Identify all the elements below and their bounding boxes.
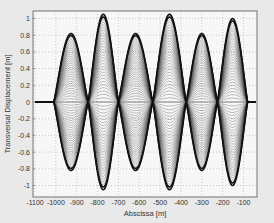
x-tick-label: -600 [132, 199, 146, 206]
x-tick-label: -700 [111, 199, 125, 206]
y-tick-label: 0.8 [20, 32, 30, 39]
x-tick-label: -1000 [47, 199, 65, 206]
y-axis-label: Transversal Displacement [m] [3, 55, 12, 154]
y-tick-label: 0.6 [20, 48, 30, 55]
y-tick-label: 0 [26, 99, 30, 106]
y-tick-label: -1 [24, 182, 30, 189]
x-axis-label: Abscissa [m] [124, 209, 167, 218]
x-tick-label: -400 [174, 199, 188, 206]
x-axis-ticks: -1100-1000-900-800-700-600-500-400-300-2… [26, 199, 250, 206]
x-tick-label: -900 [70, 199, 84, 206]
y-tick-label: 1 [26, 15, 30, 22]
y-tick-label: -0.2 [18, 115, 30, 122]
x-tick-label: -500 [153, 199, 167, 206]
x-tick-label: -1100 [26, 199, 43, 206]
y-tick-label: 0.4 [20, 65, 30, 72]
y-tick-label: 0.2 [20, 82, 30, 89]
y-tick-label: -0.8 [18, 165, 30, 172]
y-tick-label: -0.4 [18, 132, 30, 139]
x-tick-label: -200 [216, 199, 230, 206]
x-tick-label: -100 [236, 199, 250, 206]
x-tick-label: -300 [195, 199, 209, 206]
y-axis-ticks: -1-0.8-0.6-0.4-0.200.20.40.60.81 [18, 15, 35, 189]
chart: -1100-1000-900-800-700-600-500-400-300-2… [0, 0, 274, 223]
x-tick-label: -800 [91, 199, 105, 206]
y-tick-label: -0.6 [18, 149, 30, 156]
